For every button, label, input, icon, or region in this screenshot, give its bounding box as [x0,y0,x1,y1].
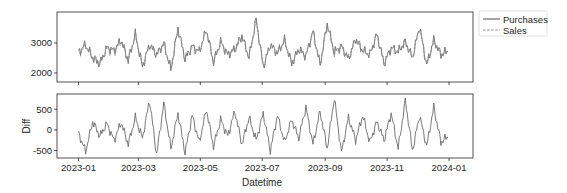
bottom-series-group [79,98,448,155]
y-axis-label-diff: Diff [21,118,32,133]
x-axis-label-datetime: Datetime [242,177,282,188]
bottom-xtick-label: 2023-01 [61,162,96,173]
legend-sales-label: Sales [503,25,527,36]
bottom-series-diff [79,98,448,155]
bottom-xtick-label: 2023-05 [183,162,218,173]
bottom-ytick-label: 0 [47,124,52,135]
top-series-sales [79,19,448,69]
legend-purchases-label: Purchases [503,14,548,25]
legend: Purchases Sales [479,11,548,36]
bottom-xtick-label: 2023-07 [245,162,280,173]
figure: 20003000 Purchases Sales -5000500 2023-0… [0,0,567,193]
bottom-xtick-label: 2024-01 [432,162,467,173]
top-series-purchases [79,18,448,71]
bottom-x-axis: 2023-012023-032023-052023-072023-092023-… [61,158,466,173]
top-series-group [79,18,448,71]
bottom-xtick-label: 2023-09 [308,162,343,173]
bottom-xtick-label: 2023-03 [121,162,156,173]
top-y-axis: 20003000 [31,37,57,78]
bottom-xtick-label: 2023-11 [370,162,404,173]
bottom-ytick-label: -500 [33,145,52,156]
bottom-ytick-label: 500 [36,104,52,115]
top-x-ticks [79,82,450,85]
top-panel: 20003000 [31,12,473,85]
bottom-panel: -5000500 2023-012023-032023-052023-07202… [21,94,473,188]
top-plot-frame [57,12,473,82]
top-ytick-label: 2000 [31,67,52,78]
bottom-y-axis: -5000500 [33,104,57,156]
top-ytick-label: 3000 [31,37,52,48]
